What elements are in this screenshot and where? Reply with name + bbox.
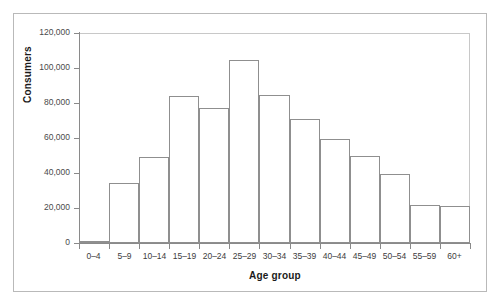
bar	[350, 156, 380, 243]
x-tick-mark	[139, 244, 140, 249]
bar	[259, 95, 290, 243]
x-tick-mark	[410, 244, 411, 249]
x-tick-mark	[229, 244, 230, 249]
x-tick-mark	[109, 244, 110, 249]
bar	[410, 205, 440, 244]
x-tick-mark	[169, 244, 170, 249]
x-tick-mark	[199, 244, 200, 249]
x-tick-mark	[320, 244, 321, 249]
y-tick-label: 20,000	[12, 203, 70, 212]
bar	[380, 174, 410, 243]
chart-figure: Consumers 020,00040,00060,00080,000100,0…	[0, 0, 501, 308]
x-tick-mark	[350, 244, 351, 249]
y-tick-label: 120,000	[12, 28, 70, 37]
bar	[169, 96, 199, 243]
x-tick-mark	[290, 244, 291, 249]
y-tick-label: 80,000	[12, 98, 70, 107]
bar	[320, 139, 350, 243]
x-tick-mark	[259, 244, 260, 249]
y-axis-line	[79, 32, 80, 244]
bar	[440, 206, 470, 243]
x-axis-line	[79, 243, 471, 244]
bar	[290, 119, 320, 243]
bar	[109, 183, 139, 243]
x-tick-mark	[470, 244, 471, 249]
bar	[79, 241, 109, 243]
x-axis-title: Age group	[79, 270, 471, 281]
bar	[199, 108, 229, 243]
x-tick-mark	[79, 244, 80, 249]
x-tick-label: 60+	[429, 252, 480, 261]
x-tick-mark	[380, 244, 381, 249]
y-tick-label: 60,000	[12, 133, 70, 142]
y-tick-label: 100,000	[12, 63, 70, 72]
y-tick-label: 40,000	[12, 168, 70, 177]
y-axis-title: Consumers	[22, 46, 33, 103]
bar	[229, 60, 259, 243]
x-tick-mark	[440, 244, 441, 249]
y-tick-label: 0	[12, 238, 70, 247]
bar	[139, 157, 169, 243]
